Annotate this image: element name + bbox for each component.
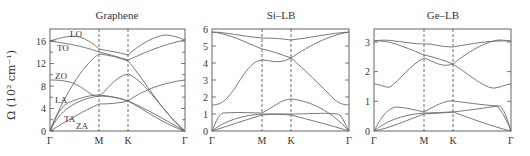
panel-si-lb: Si–LB 0 1 2 3 4 5 6 Γ M K Γ bbox=[203, 9, 352, 146]
tick-label: 2 bbox=[365, 66, 370, 77]
y-ticks bbox=[212, 46, 349, 114]
plot-frame bbox=[374, 29, 511, 131]
acoustic-branch-1 bbox=[212, 99, 349, 131]
tick-label: 16 bbox=[36, 36, 46, 47]
panel-ge-lb: Ge–LB 0 1 2 3 Γ M K Γ bbox=[365, 9, 514, 146]
x-tick-labels: Γ M K Γ bbox=[371, 135, 514, 146]
acoustic-branch-3 bbox=[212, 114, 349, 131]
tick-label: 2 bbox=[203, 92, 208, 103]
lo-label: LO bbox=[70, 29, 82, 39]
tick-label: 12 bbox=[36, 58, 46, 69]
m-label: M bbox=[95, 135, 104, 146]
dispersion-curves bbox=[212, 32, 349, 131]
tick-label: 3 bbox=[203, 75, 208, 86]
optical-branch-3 bbox=[212, 58, 349, 105]
dispersion-curves bbox=[374, 40, 511, 131]
tick-label: 0 bbox=[203, 126, 208, 137]
k-label: K bbox=[287, 135, 295, 146]
optical-branch-2 bbox=[212, 32, 349, 58]
y-tick-labels: 0 1 2 3 bbox=[365, 37, 370, 137]
za-label: ZA bbox=[76, 121, 88, 131]
tick-label: 4 bbox=[41, 103, 46, 114]
tick-label: 1 bbox=[203, 109, 208, 120]
gamma-label: Γ bbox=[209, 135, 215, 146]
plot-frame bbox=[212, 29, 349, 131]
y-tick-labels: 0 1 2 3 4 5 6 bbox=[203, 24, 208, 137]
tick-label: 5 bbox=[203, 41, 208, 52]
zo-label: ZO bbox=[55, 71, 67, 81]
to-branch bbox=[50, 40, 185, 60]
panel-graphene: Graphene 0 4 8 12 16 Γ M K bbox=[36, 9, 188, 146]
tick-label: 8 bbox=[41, 81, 46, 92]
tick-label: 1 bbox=[365, 96, 370, 107]
ta-label: TA bbox=[64, 114, 76, 124]
la-branch bbox=[50, 95, 185, 131]
acoustic-branch-2 bbox=[212, 113, 349, 131]
gamma-label: Γ bbox=[508, 135, 514, 146]
gamma-label: Γ bbox=[346, 135, 352, 146]
panel-title-si-lb: Si–LB bbox=[267, 9, 296, 21]
acoustic-branch-1 bbox=[374, 101, 511, 131]
tick-label: 0 bbox=[41, 126, 46, 137]
optical-branch-3 bbox=[374, 58, 511, 88]
y-ticks bbox=[374, 42, 511, 101]
m-label: M bbox=[258, 135, 267, 146]
tick-label: 6 bbox=[203, 24, 208, 35]
x-tick-labels: Γ M K Γ bbox=[209, 135, 352, 146]
acoustic-branch-2 bbox=[374, 106, 511, 131]
gamma-label: Γ bbox=[182, 135, 188, 146]
la-label: LA bbox=[55, 95, 67, 105]
optical-branch-1 bbox=[212, 32, 349, 40]
k-label: K bbox=[449, 135, 457, 146]
panel-title-ge-lb: Ge–LB bbox=[427, 9, 459, 21]
k-label: K bbox=[124, 135, 132, 146]
gamma-label: Γ bbox=[371, 135, 377, 146]
x-tick-labels: Γ M K Γ bbox=[47, 135, 188, 146]
phonon-dispersion-figure: Graphene 0 4 8 12 16 Γ M K bbox=[0, 0, 530, 156]
optical-branch-2 bbox=[374, 40, 511, 64]
panel-title-graphene: Graphene bbox=[96, 9, 139, 21]
y-tick-labels: 0 4 8 12 16 bbox=[36, 36, 46, 137]
tick-label: 3 bbox=[365, 37, 370, 48]
to-label: TO bbox=[57, 43, 69, 53]
gamma-label: Γ bbox=[47, 135, 53, 146]
tick-label: 0 bbox=[365, 126, 370, 137]
tick-label: 4 bbox=[203, 58, 208, 69]
m-label: M bbox=[420, 135, 429, 146]
acoustic-branch-3 bbox=[374, 112, 511, 131]
